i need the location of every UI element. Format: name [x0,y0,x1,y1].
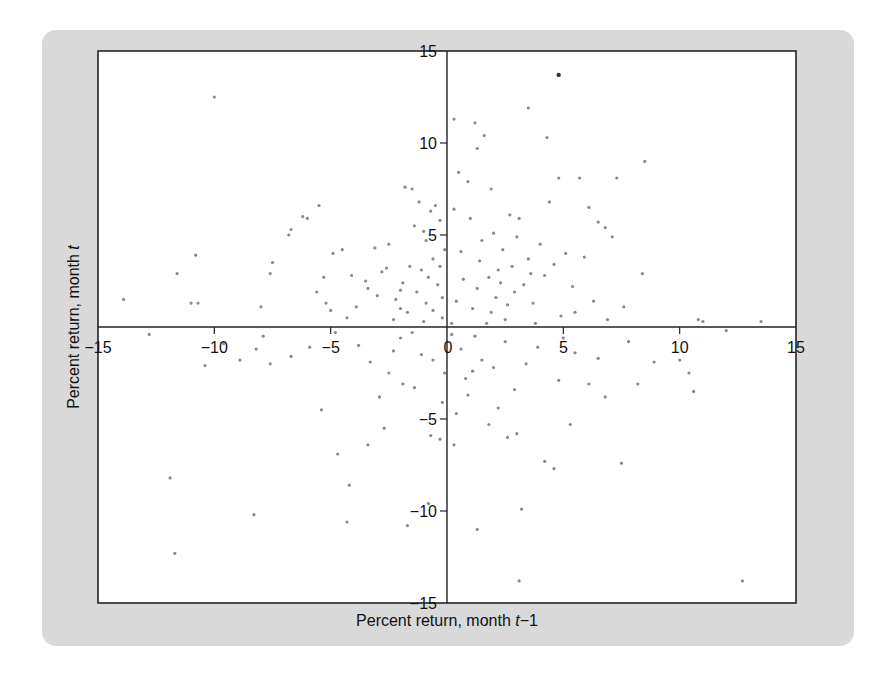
data-point [476,287,479,290]
data-point [462,278,465,281]
data-point [345,316,348,319]
data-point [760,320,763,323]
data-point [413,386,416,389]
data-point [450,322,453,325]
data-point [464,377,467,380]
data-point [539,243,542,246]
data-point [520,508,523,511]
data-point [378,395,381,398]
data-point [532,302,535,305]
data-point [522,283,525,286]
data-point [415,290,418,293]
data-point [506,436,509,439]
data-point [492,366,495,369]
data-point [452,208,455,211]
data-point [345,520,348,523]
data-point [387,243,390,246]
data-point [420,353,423,356]
data-point [513,388,516,391]
data-point [441,296,444,299]
x-tick-label: −5 [322,339,340,356]
data-point [450,333,453,336]
data-point [615,176,618,179]
x-tick-label: 10 [671,339,689,356]
data-point [287,233,290,236]
x-tick-label: 5 [559,339,568,356]
data-point [271,261,274,264]
y-tick-label: 15 [419,43,437,60]
data-point [641,272,644,275]
data-point [401,281,404,284]
data-point [494,296,497,299]
data-point [473,335,476,338]
data-point [604,226,607,229]
data-point [404,186,407,189]
data-point [592,300,595,303]
data-point [504,318,507,321]
data-point [301,215,304,218]
data-point [380,270,383,273]
data-point [269,362,272,365]
data-point [525,362,528,365]
data-point [441,316,444,319]
data-point [697,318,700,321]
data-point [483,134,486,137]
data-point [573,311,576,314]
data-point [587,206,590,209]
data-point [459,250,462,253]
y-tick-label: −15 [410,595,437,612]
data-point [583,256,586,259]
data-point [587,382,590,385]
data-point [322,276,325,279]
scatter-plot: −15−10−5051015−15−10−551015 [0,0,896,678]
data-point [411,331,414,334]
data-point [413,224,416,227]
data-point [376,294,379,297]
data-point [334,331,337,334]
data-point [364,279,367,282]
data-point [622,305,625,308]
data-point [497,406,500,409]
data-point [429,210,432,213]
x-tick-label: 15 [787,339,805,356]
data-point [262,335,265,338]
data-point [443,371,446,374]
data-point [466,180,469,183]
data-point [436,283,439,286]
data-point [173,552,176,555]
data-point [471,307,474,310]
data-point [369,360,372,363]
y-axis-label: Percent return, month t [65,245,83,409]
data-point [678,359,681,362]
data-point [394,298,397,301]
data-point [557,379,560,382]
data-point [238,359,241,362]
data-point [399,336,402,339]
data-point [490,311,493,314]
data-point [552,467,555,470]
data-point [548,200,551,203]
data-point [418,200,421,203]
data-point [515,235,518,238]
data-point [341,248,344,251]
data-point [190,302,193,305]
data-point [355,305,358,308]
data-point [176,272,179,275]
data-point [527,106,530,109]
data-point [597,357,600,360]
data-point [269,272,272,275]
data-point [443,248,446,251]
data-point [510,265,513,268]
data-point [476,147,479,150]
data-point [315,290,318,293]
data-point [564,252,567,255]
data-point [552,263,555,266]
data-point [515,432,518,435]
data-point [252,513,255,516]
data-point [427,276,430,279]
data-point [366,287,369,290]
data-point [499,281,502,284]
data-point [203,364,206,367]
data-point [213,95,216,98]
data-point [604,395,607,398]
